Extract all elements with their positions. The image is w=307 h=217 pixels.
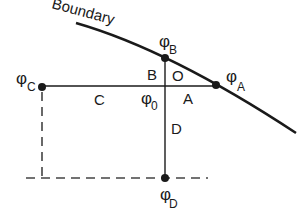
segment-label-o: O: [172, 67, 184, 84]
svg-text:D: D: [169, 197, 178, 211]
node-phi-c-point: [38, 83, 46, 91]
segment-label-a: A: [183, 90, 193, 107]
svg-text:φ: φ: [16, 69, 27, 88]
svg-text:φ: φ: [226, 67, 237, 86]
segment-label-d: D: [171, 120, 182, 137]
label-phi-c: φ C: [16, 69, 36, 94]
svg-text:C: C: [27, 80, 36, 94]
label-phi-0: φ 0: [141, 89, 158, 113]
boundary-label: Boundary: [50, 0, 117, 28]
segment-label-b: B: [147, 66, 157, 83]
node-phi-a-point: [212, 81, 220, 89]
node-phi-d-point: [161, 174, 169, 182]
finite-difference-boundary-diagram: Boundary φ B φ A φ C φ 0 φ D B O A C D: [0, 0, 307, 217]
label-phi-d: φ D: [160, 185, 178, 211]
svg-text:0: 0: [151, 99, 158, 113]
svg-text:A: A: [237, 80, 245, 94]
svg-text:B: B: [169, 43, 177, 57]
label-phi-b: φ B: [159, 32, 177, 57]
segment-label-c: C: [94, 91, 105, 108]
boundary-curve: [76, 23, 296, 133]
node-phi-b-point: [161, 54, 169, 62]
